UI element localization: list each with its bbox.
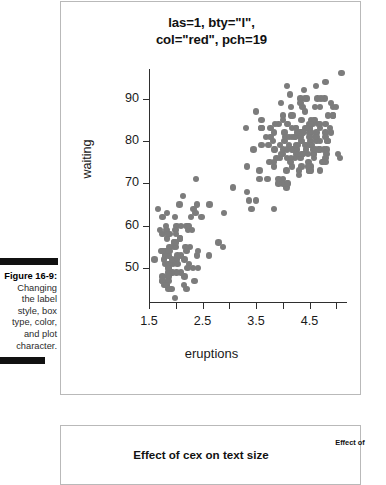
scatter-point <box>305 163 311 169</box>
scatter-point <box>295 151 301 157</box>
scatter-point <box>193 176 199 182</box>
scatter-point <box>264 176 270 182</box>
caption-figure-label: Figure 16-9: <box>0 271 57 283</box>
scatter-point <box>284 83 290 89</box>
figure-panel-main: las=1, bty="l", col="red", pch=19 506070… <box>60 1 361 395</box>
scatter-point <box>165 265 171 271</box>
scatter-point <box>298 163 304 169</box>
scatter-point <box>295 142 301 148</box>
scatter-point <box>243 125 249 131</box>
caption-rule-bottom <box>0 357 45 364</box>
scatter-point <box>271 206 277 212</box>
scatter-point <box>157 227 163 233</box>
scatter-point <box>258 117 264 123</box>
caption-line-5: and plot <box>0 329 57 341</box>
scatter-point <box>338 70 344 76</box>
caption-text: Figure 16-9: Changing the label style, b… <box>0 271 58 352</box>
scatter-point <box>244 189 250 195</box>
scatter-point <box>253 197 259 203</box>
scatter-point <box>306 134 312 140</box>
scatter-point <box>302 95 308 101</box>
scatter-point <box>313 83 319 89</box>
scatter-point <box>271 129 277 135</box>
scatter-point <box>256 167 262 173</box>
next-figure-title: Effect of cex on text size <box>61 448 341 461</box>
scatter-point <box>191 278 197 284</box>
scatter-point <box>206 201 212 207</box>
scatter-point <box>302 108 308 114</box>
scatter-point <box>312 104 318 110</box>
scatter-point <box>256 176 262 182</box>
scatter-point <box>215 239 221 245</box>
caption-line-6: character. <box>0 341 57 353</box>
scatter-point <box>248 206 254 212</box>
scatter-point <box>253 108 259 114</box>
scatter-point <box>322 134 328 140</box>
figure-caption-block: Figure 16-9: Changing the label style, b… <box>0 258 58 364</box>
x-axis-title: eruptions <box>61 346 362 361</box>
scatter-point <box>250 146 256 152</box>
scatter-point <box>275 176 281 182</box>
scatter-point <box>284 146 290 152</box>
caption-line-2: the label <box>0 294 57 306</box>
next-figure-side-title: Effect of <box>320 438 380 447</box>
scatter-point <box>195 248 201 254</box>
scatter-point <box>198 214 204 220</box>
scatter-point <box>270 138 276 144</box>
scatter-point <box>184 265 190 271</box>
scatter-point <box>172 295 178 301</box>
scatter-point <box>284 180 290 186</box>
scatter-point <box>173 239 179 245</box>
scatter-point <box>317 167 323 173</box>
scatter-point <box>174 261 180 267</box>
scatter-point <box>321 146 327 152</box>
caption-line-1: Changing <box>0 283 57 295</box>
y-axis-title: waiting <box>80 119 94 199</box>
scatter-point <box>322 79 328 85</box>
scatter-point <box>287 91 293 97</box>
scatter-point <box>221 210 227 216</box>
scatter-point <box>172 214 178 220</box>
scatter-point <box>183 248 189 254</box>
scatter-point <box>335 151 341 157</box>
scatter-point <box>190 206 196 212</box>
scatter-point <box>296 172 302 178</box>
scatter-point <box>314 95 320 101</box>
scatter-point <box>244 163 250 169</box>
caption-line-3: style, box <box>0 306 57 318</box>
scatter-point <box>195 265 201 271</box>
caption-line-4: type, color, <box>0 317 57 329</box>
scatter-point <box>206 252 212 258</box>
scatter-point <box>258 142 264 148</box>
scatter-point <box>151 256 157 262</box>
scatter-points-layer <box>61 2 362 396</box>
scatter-point <box>333 104 339 110</box>
scatter-point <box>176 201 182 207</box>
scatter-plot: 5060708090 1.52.53.54.5 waiting eruption… <box>61 2 362 396</box>
scatter-point <box>330 112 336 118</box>
scatter-point <box>180 193 186 199</box>
scatter-point <box>289 112 295 118</box>
scatter-point <box>258 125 264 131</box>
scatter-point <box>271 146 277 152</box>
scatter-point <box>230 184 236 190</box>
scatter-point <box>278 100 284 106</box>
scatter-point <box>317 138 323 144</box>
figure-panel-next: Effect of cex on text size Effect of <box>60 425 361 485</box>
scatter-point <box>155 206 161 212</box>
scatter-point <box>288 104 294 110</box>
scatter-point <box>174 252 180 258</box>
caption-rule-top <box>0 258 58 265</box>
scatter-point <box>298 117 304 123</box>
scatter-point <box>246 197 252 203</box>
scatter-point <box>301 87 307 93</box>
scatter-point <box>164 210 170 216</box>
